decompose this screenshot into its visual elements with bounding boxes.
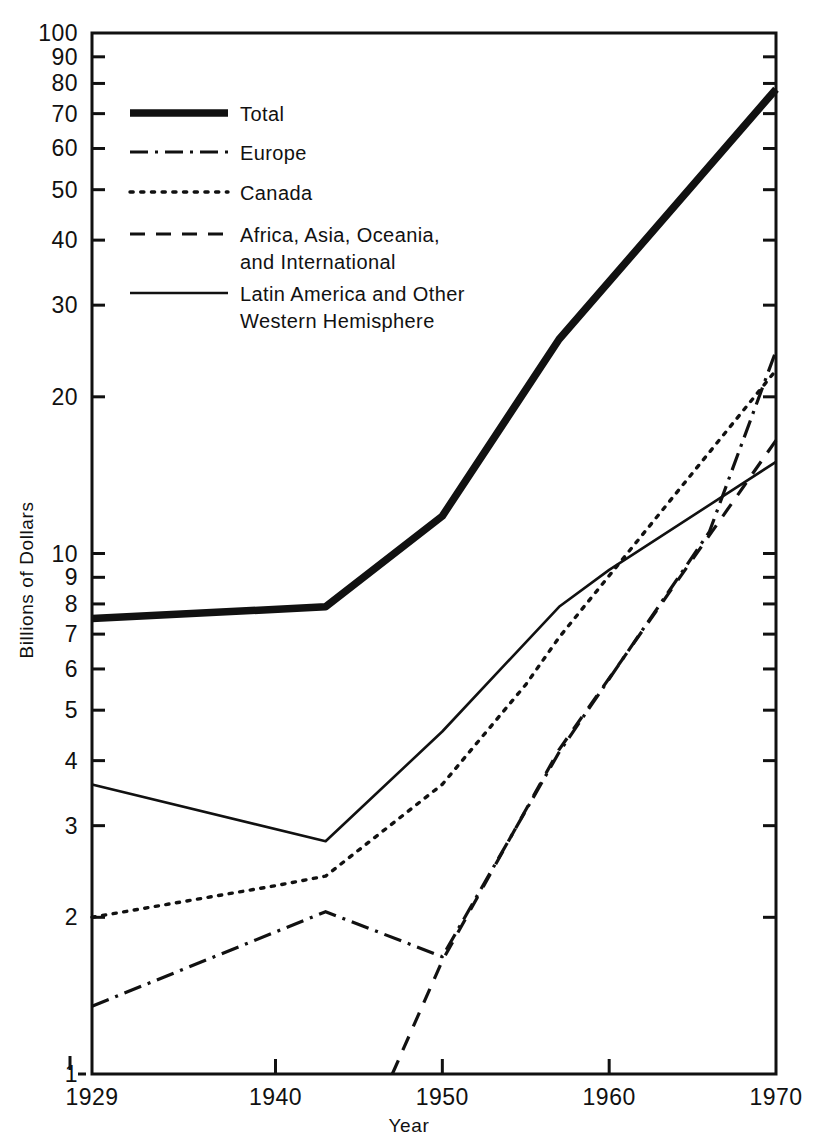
series-line bbox=[92, 89, 776, 618]
y-tick-label: 100 bbox=[38, 20, 78, 46]
legend-label: Latin America and Other bbox=[240, 283, 465, 305]
y-tick-label: 30 bbox=[51, 292, 78, 318]
y-tick-label: 10 bbox=[51, 541, 78, 567]
x-tick-label: 1960 bbox=[583, 1084, 636, 1110]
legend-label: Canada bbox=[240, 182, 313, 204]
x-tick-label: 1940 bbox=[249, 1084, 302, 1110]
legend-label: Total bbox=[240, 103, 284, 125]
legend-label: Africa, Asia, Oceania, bbox=[240, 224, 440, 246]
x-tick-label: 1970 bbox=[749, 1084, 802, 1110]
legend-label-line2: and International bbox=[240, 251, 396, 273]
y-tick-label: 40 bbox=[51, 227, 78, 253]
legend-label-line2: Western Hemisphere bbox=[240, 310, 435, 332]
x-axis-title: Year bbox=[389, 1115, 430, 1136]
y-axis-tick-labels: 123456789102030405060708090100 bbox=[38, 20, 78, 1087]
y-tick-label: 90 bbox=[51, 44, 78, 70]
chart-canvas: 123456789102030405060708090100 192919401… bbox=[0, 0, 818, 1146]
series-line bbox=[92, 351, 776, 1006]
plot-frame bbox=[92, 33, 776, 1074]
y-tick-label: 8 bbox=[65, 591, 78, 617]
log-line-chart: 123456789102030405060708090100 192919401… bbox=[0, 0, 818, 1146]
y-tick-label: 20 bbox=[51, 384, 78, 410]
y-tick-label: 50 bbox=[51, 177, 78, 203]
y-tick-label: 2 bbox=[65, 904, 78, 930]
series-line bbox=[392, 440, 776, 1074]
y-tick-label: 60 bbox=[51, 135, 78, 161]
series-line bbox=[92, 370, 776, 917]
legend: TotalEuropeCanadaAfrica, Asia, Oceania,a… bbox=[130, 103, 465, 332]
y-tick-label: 6 bbox=[65, 656, 78, 682]
y-tick-label: 4 bbox=[65, 748, 78, 774]
x-axis-tick-labels: 19291940195019601970 bbox=[65, 1084, 802, 1110]
legend-label: Europe bbox=[240, 142, 307, 164]
x-tick-label: 1950 bbox=[416, 1084, 469, 1110]
y-tick-label: 7 bbox=[65, 621, 78, 647]
x-axis-ticks bbox=[70, 1056, 609, 1074]
y-tick-label: 9 bbox=[65, 564, 78, 590]
x-tick-label: 1929 bbox=[65, 1084, 118, 1110]
y-tick-label: 3 bbox=[65, 813, 78, 839]
y-axis-title: Billions of Dollars bbox=[16, 501, 37, 658]
y-tick-label: 80 bbox=[51, 70, 78, 96]
y-tick-label: 70 bbox=[51, 101, 78, 127]
y-tick-label: 5 bbox=[65, 697, 78, 723]
